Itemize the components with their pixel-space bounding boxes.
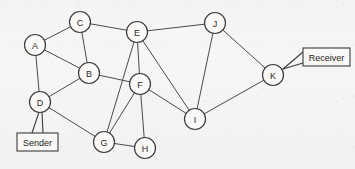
edge-a-c <box>44 27 70 40</box>
node-h[interactable]: H <box>135 138 156 159</box>
nodes-layer: ABCDEFGHIJK <box>25 12 284 159</box>
network-graph: ABCDEFGHIJK SenderReceiver <box>0 0 355 169</box>
edge-e-j <box>147 24 204 31</box>
diagram-canvas: ABCDEFGHIJK SenderReceiver <box>0 0 355 169</box>
edge-f-i <box>149 90 186 114</box>
node-c[interactable]: C <box>70 12 91 33</box>
edge-a-d <box>36 55 39 91</box>
sender-leader-line-1 <box>32 112 39 133</box>
receiver-callout[interactable]: Receiver <box>303 48 350 66</box>
edge-c-b <box>82 32 87 62</box>
node-label-e: E <box>134 28 140 38</box>
edge-f-h <box>141 94 144 137</box>
node-label-b: B <box>86 69 92 79</box>
node-j[interactable]: J <box>205 13 226 34</box>
node-f[interactable]: F <box>130 74 151 95</box>
node-g[interactable]: G <box>94 132 115 153</box>
edge-f-g <box>110 93 135 133</box>
edge-j-k <box>223 30 265 68</box>
node-k[interactable]: K <box>263 65 284 86</box>
node-b[interactable]: B <box>79 63 100 84</box>
node-label-d: D <box>37 98 44 108</box>
node-label-g: G <box>100 138 107 148</box>
edge-b-d <box>49 78 80 96</box>
edge-a-b <box>44 50 79 68</box>
node-label-h: H <box>142 144 149 154</box>
node-label-i: I <box>194 115 197 125</box>
edge-i-j <box>197 33 213 108</box>
node-a[interactable]: A <box>25 35 46 56</box>
node-label-c: C <box>77 18 84 28</box>
node-label-f: F <box>137 80 143 90</box>
node-i[interactable]: I <box>185 109 206 130</box>
sender-callout-label: Sender <box>23 138 52 148</box>
edge-e-i <box>143 41 189 111</box>
node-label-k: K <box>270 71 276 81</box>
edge-g-h <box>114 144 134 147</box>
receiver-callout-label: Receiver <box>309 53 345 63</box>
edge-b-f <box>99 75 129 82</box>
node-d[interactable]: D <box>30 92 51 113</box>
node-e[interactable]: E <box>127 22 148 43</box>
edge-c-e <box>90 24 126 30</box>
edge-i-k <box>204 80 264 114</box>
sender-leader-line-2 <box>42 112 43 133</box>
sender-callout[interactable]: Sender <box>17 133 58 151</box>
edge-e-f <box>138 42 140 73</box>
node-label-a: A <box>32 41 38 51</box>
node-label-j: J <box>213 19 218 29</box>
edge-d-g <box>49 108 95 137</box>
